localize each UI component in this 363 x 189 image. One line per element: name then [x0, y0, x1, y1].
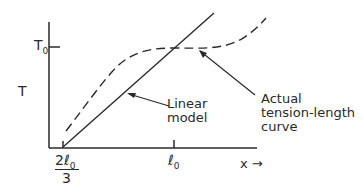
- linear-pointer-arrowhead: [127, 93, 136, 98]
- x-arrow-icon: →: [252, 156, 263, 171]
- linear-model-line: [63, 13, 214, 147]
- x-tick-left-denominator: 3: [62, 171, 71, 186]
- actual-curve: [66, 18, 266, 131]
- actual-curve-label-1: Actual: [261, 91, 302, 106]
- actual-curve-label-3: curve: [261, 119, 297, 134]
- tension-length-diagram: T0 T Linear model Actual tension-length …: [0, 0, 363, 189]
- actual-pointer-line: [200, 51, 255, 95]
- actual-pointer-arrowhead: [199, 50, 207, 58]
- t0-label: T0: [34, 38, 48, 59]
- y-axis-label: T: [18, 84, 27, 99]
- linear-model-label-1: Linear: [167, 96, 207, 111]
- linear-pointer-line: [129, 94, 169, 106]
- actual-curve-label-2: tension-length: [261, 105, 355, 120]
- x-tick-right-label: ℓ0: [168, 153, 180, 174]
- linear-model-label-2: model: [167, 110, 207, 125]
- x-axis-label: x →: [240, 156, 263, 171]
